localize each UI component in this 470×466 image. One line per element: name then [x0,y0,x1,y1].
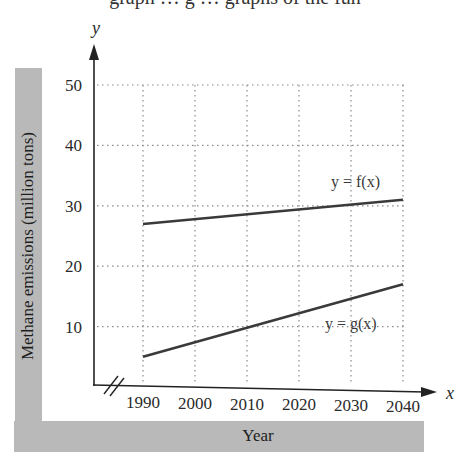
y-axis-arrow-icon [89,44,99,60]
y-tick-label: 40 [65,136,82,155]
y-tick-label: 20 [65,257,82,276]
x-tick-label: 2000 [178,394,212,413]
y-tick-labels: 1020304050 [65,76,82,337]
chart-plot: y x 1020304050 199020002010202020302040 … [0,0,470,466]
y-tick-label: 30 [65,197,82,216]
y-tick-label: 10 [65,318,82,337]
x-axis-symbol: x [445,383,454,403]
f-series-label: y = f(x) [331,173,380,191]
y-axis-symbol: y [90,18,100,38]
x-tick-label: 2030 [334,396,368,415]
x-axis-arrow-icon [421,387,437,397]
y-axis [89,44,99,386]
g-series-label: y = g(x) [325,315,377,333]
grid-lines [97,85,405,384]
x-tick-label: 2020 [282,395,316,414]
x-tick-label: 2010 [230,395,264,414]
y-tick-label: 50 [65,76,82,95]
series-lines [143,200,403,357]
series-line-f [143,200,403,224]
x-tick-labels: 199020002010202020302040 [126,393,420,416]
x-tick-label: 2040 [386,397,420,416]
x-tick-label: 1990 [126,393,160,412]
